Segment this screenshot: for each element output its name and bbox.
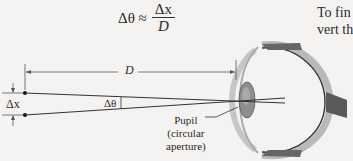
pupil-label-line-2: (circular (166, 127, 206, 140)
pupil-label-line-3: aperture) (166, 140, 206, 153)
formula: Δθ ≈ Δx D (118, 2, 175, 34)
formula-fraction: Δx D (152, 2, 175, 34)
formula-lhs: Δθ ≈ (118, 10, 147, 27)
side-text: To fin vert th (317, 4, 353, 38)
formula-denominator: D (158, 18, 169, 34)
angle-label: Δθ (104, 97, 116, 109)
formula-numerator: Δx (152, 2, 175, 18)
pupil-label-line-1: Pupil (166, 114, 206, 127)
side-text-line-2: vert th (317, 21, 353, 38)
distance-label: D (122, 63, 137, 78)
separation-label: Δx (6, 97, 20, 112)
side-text-line-1: To fin (317, 4, 353, 21)
pupil-label: Pupil (circular aperture) (166, 114, 206, 153)
